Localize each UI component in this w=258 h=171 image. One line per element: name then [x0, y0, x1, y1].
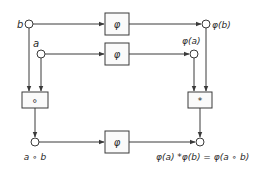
node-b — [25, 20, 33, 28]
node-a — [37, 50, 45, 58]
box-phi-middle-label: φ — [114, 49, 121, 60]
label-phi-b: φ(b) — [212, 20, 231, 30]
box-phi-top-label: φ — [114, 19, 121, 30]
box-compose-left-label: ∘ — [32, 95, 38, 106]
label-a-comp-b: a ∘ b — [24, 152, 47, 162]
homomorphism-diagram: φ φ ∘ * φ b a φ(b) φ(a) a ∘ b φ(a) *φ(b)… — [0, 0, 258, 171]
box-phi-bottom-label: φ — [114, 137, 121, 148]
node-a-comp-b — [31, 138, 39, 146]
label-phi-a: φ(a) — [182, 36, 200, 46]
label-b: b — [17, 19, 23, 30]
label-equation: φ(a) *φ(b) = φ(a ∘ b) — [156, 152, 249, 162]
label-a: a — [33, 38, 39, 49]
node-result — [196, 138, 204, 146]
edges — [29, 24, 206, 142]
box-compose-right-label: * — [198, 96, 203, 106]
node-phi-b — [202, 20, 210, 28]
node-phi-a — [190, 50, 198, 58]
